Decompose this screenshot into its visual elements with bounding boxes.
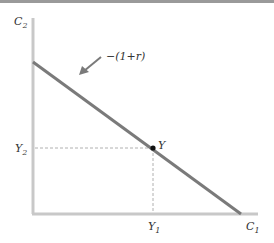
endowment-point-label: Y (158, 139, 167, 152)
y1-tick-label: Y1 (148, 220, 160, 235)
y2-tick-label: Y2 (15, 142, 27, 157)
slope-label: −(1+r) (106, 50, 145, 63)
endowment-point (150, 145, 155, 150)
x-axis-label: C1 (246, 220, 260, 235)
slope-arrow-icon (79, 57, 101, 75)
y-axis-label: C2 (14, 15, 28, 30)
budget-line (33, 62, 241, 214)
budget-constraint-diagram: C2 −(1+r) Y2 Y Y1 C1 (0, 0, 274, 243)
